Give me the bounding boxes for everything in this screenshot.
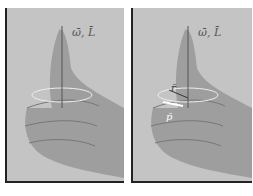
omega-L-label: ω̄, L̄ (72, 26, 95, 39)
hand-illustration (133, 8, 252, 181)
p-vector-label: p̄ (166, 111, 172, 122)
hand-illustration (7, 8, 124, 181)
right-panel: ω̄, L̄ r̄ p̄ (131, 8, 252, 183)
omega-L-label: ω̄, L̄ (198, 26, 221, 39)
left-panel: ω̄, L̄ (5, 8, 124, 183)
r-vector-label: r̄ (171, 82, 176, 93)
